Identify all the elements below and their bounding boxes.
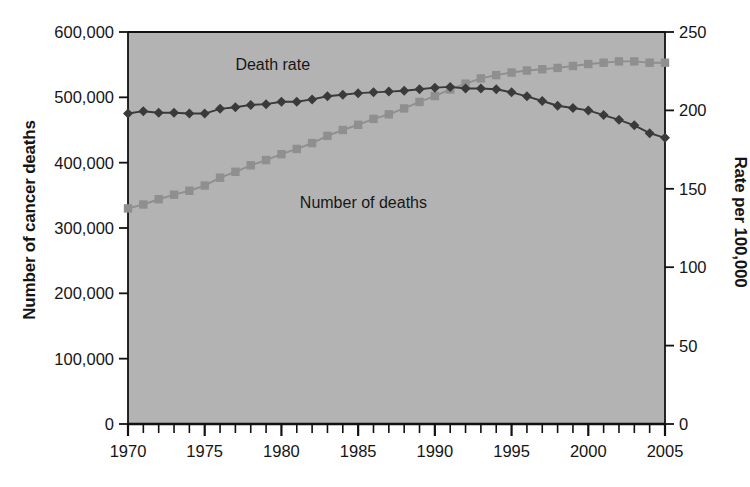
x-tick-label: 1970 [110, 442, 147, 461]
data-point-marker [216, 173, 224, 181]
data-point-marker [170, 190, 178, 198]
data-point-marker [553, 64, 561, 72]
data-point-marker [615, 57, 623, 65]
y-tick-label-right: 150 [679, 179, 707, 198]
data-point-marker [247, 161, 255, 169]
data-point-marker [354, 121, 362, 129]
data-point-marker [507, 68, 515, 76]
x-tick-label: 2000 [570, 442, 607, 461]
y-tick-label-left: 400,000 [54, 153, 114, 172]
data-point-marker [262, 156, 270, 164]
series-annotation-label: Death rate [235, 56, 310, 74]
data-point-marker [231, 168, 239, 176]
data-point-marker [599, 59, 607, 67]
data-point-marker [569, 62, 577, 70]
x-tick-label: 1980 [263, 442, 300, 461]
data-point-marker [492, 71, 500, 79]
data-point-marker [661, 59, 669, 67]
y-tick-label-right: 0 [679, 415, 688, 434]
data-point-marker [538, 65, 546, 73]
y-tick-label-left: 300,000 [54, 219, 114, 238]
data-point-marker [645, 59, 653, 67]
data-point-marker [124, 204, 132, 212]
x-tick-label: 1985 [340, 442, 377, 461]
data-point-marker [630, 57, 638, 65]
data-point-marker [323, 132, 331, 140]
y-tick-label-right: 100 [679, 258, 707, 277]
data-point-marker [139, 200, 147, 208]
y-tick-label-left: 200,000 [54, 284, 114, 303]
data-point-marker [201, 181, 209, 189]
y-axis-title-left: Number of cancer deaths [20, 70, 40, 370]
y-tick-label-left: 0 [105, 415, 114, 434]
data-point-marker [369, 115, 377, 123]
x-tick-label: 1995 [493, 442, 530, 461]
y-tick-label-right: 250 [679, 23, 707, 42]
data-point-marker [477, 74, 485, 82]
x-tick-label: 2005 [647, 442, 684, 461]
series-annotation-label: Number of deaths [300, 194, 427, 212]
y-tick-label-right: 50 [679, 336, 697, 355]
data-point-marker [154, 195, 162, 203]
y-tick-label-left: 500,000 [54, 88, 114, 107]
data-point-marker [339, 126, 347, 134]
data-point-marker [584, 60, 592, 68]
data-point-marker [431, 92, 439, 100]
data-point-marker [523, 66, 531, 74]
data-point-marker [415, 98, 423, 106]
data-point-marker [277, 150, 285, 158]
y-tick-label-left: 100,000 [54, 349, 114, 368]
data-point-marker [400, 104, 408, 112]
y-tick-label-left: 600,000 [54, 23, 114, 42]
data-point-marker [185, 187, 193, 195]
data-point-marker [293, 145, 301, 153]
data-point-marker [308, 139, 316, 147]
y-tick-label-right: 200 [679, 101, 707, 120]
x-tick-label: 1975 [186, 442, 223, 461]
data-point-marker [385, 110, 393, 118]
y-axis-title-right: Rate per 100,000 [730, 72, 750, 372]
x-tick-label: 1990 [416, 442, 453, 461]
